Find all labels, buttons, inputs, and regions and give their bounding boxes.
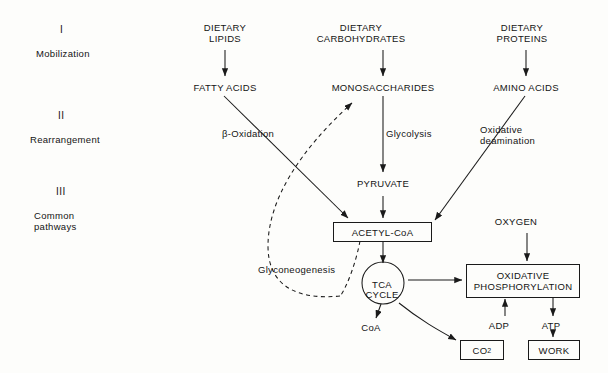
diagram-canvas: I Mobilization II Rearrangement III Comm… xyxy=(0,0,608,373)
stage-label-mobilization: Mobilization xyxy=(36,48,90,59)
node-fatty-acids: FATTY ACIDS xyxy=(193,82,256,93)
node-acetyl-coa: ACETYL-CoA xyxy=(333,222,432,242)
node-adp: ADP xyxy=(489,320,509,331)
connector-acetyl-coa-glyconeogenesis xyxy=(341,241,360,295)
edge-label-oxidative-deamination: Oxidative deamination xyxy=(480,124,535,146)
node-co2: CO2 xyxy=(460,340,504,360)
stage-label-common-pathways: Common pathways xyxy=(34,210,77,232)
edge-label-glyconeogenesis: Glyconeogenesis xyxy=(258,264,335,275)
node-pyruvate: PYRUVATE xyxy=(357,178,409,189)
co2-text: CO xyxy=(472,345,487,356)
stage-numeral-3: III xyxy=(56,186,66,197)
edge-label-glycolysis: Glycolysis xyxy=(386,128,432,139)
node-coa: CoA xyxy=(361,322,380,333)
stage-numeral-2: II xyxy=(58,110,65,121)
co2-subscript: 2 xyxy=(487,345,491,356)
stage-label-rearrangement: Rearrangement xyxy=(30,134,100,145)
arrow-tca-to-coa xyxy=(376,304,381,318)
arrow-fatty-acids-to-acetyl-coa xyxy=(224,96,348,218)
node-oxygen: OXYGEN xyxy=(495,216,537,227)
node-atp: ATP xyxy=(542,320,561,331)
node-dietary-proteins: DIETARY PROTEINS xyxy=(497,22,548,44)
node-monosaccharides: MONOSACCHARIDES xyxy=(332,82,435,93)
stage-numeral-1: I xyxy=(60,24,63,35)
edge-label-beta-oxidation: β-Oxidation xyxy=(222,128,274,139)
arrow-tca-to-co2 xyxy=(399,303,456,340)
arrow-amino-acids-to-acetyl-coa xyxy=(435,96,525,220)
node-amino-acids: AMINO ACIDS xyxy=(493,82,559,93)
node-oxidative-phosphorylation: OXIDATIVE PHOSPHORYLATION xyxy=(466,264,580,298)
node-work: WORK xyxy=(528,340,580,360)
connector-layer xyxy=(0,0,608,373)
node-tca-cycle: TCA CYCLE xyxy=(365,280,398,300)
node-dietary-lipids: DIETARY LIPIDS xyxy=(204,22,246,44)
node-dietary-carbohydrates: DIETARY CARBOHYDRATES xyxy=(317,22,406,44)
